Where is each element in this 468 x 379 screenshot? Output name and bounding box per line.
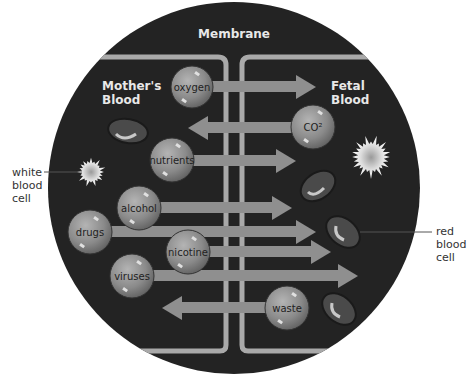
svg-text:nicotine: nicotine bbox=[168, 247, 208, 258]
svg-text:CO²: CO² bbox=[304, 122, 323, 133]
molecule-drugs: drugs bbox=[68, 210, 112, 254]
white-blood-cell-label-line1: white bbox=[12, 166, 42, 179]
red-blood-cell-label-line1: red bbox=[436, 225, 454, 238]
molecule-oxygen: oxygen bbox=[171, 66, 213, 108]
svg-text:drugs: drugs bbox=[76, 227, 104, 238]
mothers-blood-label-line1: Mother's bbox=[102, 79, 161, 93]
svg-text:oxygen: oxygen bbox=[174, 82, 210, 93]
molecule-nutrients: nutrients bbox=[149, 138, 194, 182]
membrane-title: Membrane bbox=[198, 27, 270, 41]
fetal-blood-label-line2: Blood bbox=[331, 93, 369, 107]
placenta-diagram: Membrane Mother's Blood Fetal Blood bbox=[0, 0, 468, 379]
white-blood-cell-label-line2: blood bbox=[12, 179, 42, 192]
molecule-waste: waste bbox=[265, 286, 309, 330]
molecule-viruses: viruses bbox=[110, 254, 154, 298]
molecule-alcohol: alcohol bbox=[117, 186, 161, 230]
molecule-co2: CO² bbox=[291, 105, 335, 149]
svg-text:waste: waste bbox=[272, 303, 302, 314]
svg-text:alcohol: alcohol bbox=[121, 203, 157, 214]
svg-text:viruses: viruses bbox=[114, 271, 150, 282]
red-blood-cell-label-line2: blood bbox=[436, 238, 466, 251]
svg-text:nutrients: nutrients bbox=[149, 155, 194, 166]
molecule-nicotine: nicotine bbox=[166, 230, 210, 274]
mothers-blood-label-line2: Blood bbox=[102, 93, 140, 107]
fetal-blood-label-line1: Fetal bbox=[331, 79, 365, 93]
white-blood-cell-label-line3: cell bbox=[12, 192, 31, 205]
red-blood-cell-label-line3: cell bbox=[436, 251, 455, 264]
